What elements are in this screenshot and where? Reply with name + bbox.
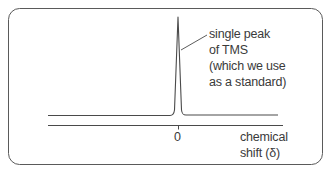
- annotation-line-4: as a standard): [209, 74, 286, 90]
- x-axis-title-line-2: shift (δ): [240, 145, 288, 161]
- x-axis-title-line-1: chemical: [240, 129, 288, 145]
- annotation-leader-line: [181, 35, 207, 50]
- x-tick-label-zero: 0: [174, 129, 181, 145]
- peak-annotation: single peak of TMS (which we use as a st…: [209, 26, 286, 90]
- annotation-line-2: of TMS: [209, 42, 286, 58]
- annotation-line-3: (which we use: [209, 58, 286, 74]
- annotation-line-1: single peak: [209, 26, 286, 42]
- x-axis-title: chemical shift (δ): [240, 129, 288, 161]
